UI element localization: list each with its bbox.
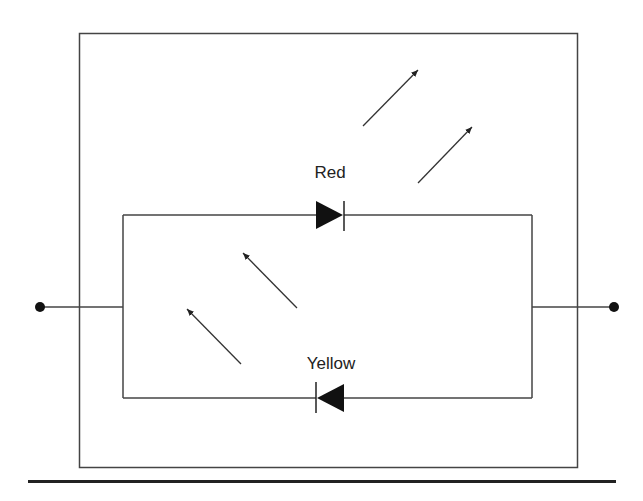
label-red: Red (314, 163, 345, 182)
arrow-up-left-icon (243, 253, 297, 308)
terminal-right-dot (609, 302, 619, 312)
arrow-up-right-icon (363, 70, 418, 126)
yellow-emission-arrows (187, 253, 297, 364)
circuit-diagram: Red Yellow (0, 0, 643, 501)
arrow-up-right-icon (418, 127, 472, 183)
diode-red-icon (316, 201, 344, 231)
bottom-rule (28, 480, 616, 483)
diode-yellow-icon (316, 382, 344, 413)
terminal-left-dot (35, 302, 45, 312)
label-yellow: Yellow (307, 354, 356, 373)
arrow-up-left-icon (187, 309, 241, 364)
red-emission-arrows (363, 70, 472, 183)
